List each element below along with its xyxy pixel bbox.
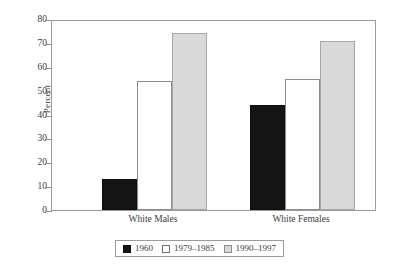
bars-layer — [52, 21, 375, 210]
legend-item: 1979–1985 — [162, 244, 215, 253]
bar — [172, 33, 207, 210]
legend-swatch-icon — [123, 245, 131, 253]
bar-chart: Percent 01020304050607080 White MalesWhi… — [0, 0, 398, 276]
bar — [137, 81, 172, 210]
bar — [320, 41, 355, 211]
bar — [250, 105, 285, 210]
legend-swatch-icon — [224, 245, 232, 253]
legend-item: 1960 — [123, 244, 153, 253]
legend-item: 1990–1997 — [224, 244, 277, 253]
x-axis-category-label: White Males — [103, 214, 203, 224]
legend-label: 1960 — [135, 244, 153, 253]
legend-label: 1990–1997 — [236, 244, 277, 253]
bar — [285, 79, 320, 210]
y-axis-tick-mark — [45, 211, 52, 212]
legend: 19601979–19851990–1997 — [115, 240, 284, 257]
x-axis-category-label: White Females — [251, 214, 351, 224]
bar — [102, 179, 137, 210]
legend-label: 1979–1985 — [174, 244, 215, 253]
plot-area — [51, 20, 376, 211]
legend-swatch-icon — [162, 245, 170, 253]
